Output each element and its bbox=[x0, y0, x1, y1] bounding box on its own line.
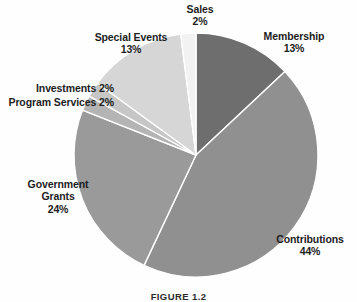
pie-label-contributions-percent: 44% bbox=[266, 245, 354, 257]
pie-label-contributions-name: Contributions bbox=[266, 233, 354, 245]
pie-label-government-grants-percent: 24% bbox=[12, 203, 104, 215]
pie-label-special-events-name: Special Events bbox=[76, 31, 186, 43]
pie-label-special-events-percent: 13% bbox=[76, 43, 186, 55]
pie-label-sales: Sales 2% bbox=[157, 3, 243, 28]
figure-caption: FIGURE 1.2 bbox=[0, 291, 357, 302]
pie-label-program-services-percent: 2% bbox=[99, 96, 114, 108]
pie-label-government-grants-name2: Grants bbox=[12, 190, 104, 202]
pie-label-investments-percent: 2% bbox=[99, 82, 114, 94]
pie-label-sales-percent: 2% bbox=[157, 15, 243, 27]
pie-chart-figure: Sales 2% Membership 13% Special Events 1… bbox=[0, 0, 357, 302]
pie-label-membership: Membership 13% bbox=[242, 30, 346, 55]
pie-label-sales-name: Sales bbox=[157, 3, 243, 15]
pie-label-program-services: Program Services 2% bbox=[0, 96, 114, 108]
pie-label-government-grants: Government Grants 24% bbox=[12, 178, 104, 215]
pie-label-membership-name: Membership bbox=[242, 30, 346, 42]
pie-label-special-events: Special Events 13% bbox=[76, 31, 186, 56]
pie-label-investments: Investments 2% bbox=[0, 82, 114, 94]
pie-label-government-grants-name: Government bbox=[12, 178, 104, 190]
pie-label-contributions: Contributions 44% bbox=[266, 233, 354, 258]
pie-label-membership-percent: 13% bbox=[242, 42, 346, 54]
pie-label-program-services-name: Program Services bbox=[8, 96, 96, 108]
pie-label-investments-name: Investments bbox=[36, 82, 96, 94]
